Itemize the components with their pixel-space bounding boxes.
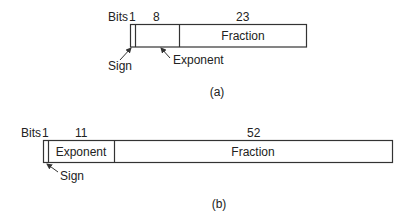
sign-width-b: 1: [42, 126, 49, 140]
sign-label-b: Sign: [60, 169, 84, 183]
fraction-label-a: Fraction: [221, 29, 264, 43]
fraction-width-a: 23: [236, 10, 250, 24]
caption-a: (a): [210, 85, 225, 99]
bits-label-a: Bits: [108, 10, 128, 24]
fraction-width-b: 52: [247, 126, 261, 140]
exponent-width-a: 8: [153, 10, 160, 24]
sign-width-a: 1: [129, 10, 136, 24]
floating-point-format-diagram: Bits 1 8 23 Fraction Sign Exponent (a) B…: [0, 0, 409, 211]
bits-label-b: Bits: [21, 126, 41, 140]
sign-arrow-b: [47, 164, 58, 172]
fraction-label-b: Fraction: [231, 145, 274, 159]
sign-label-a: Sign: [108, 59, 132, 73]
exponent-width-b: 11: [75, 126, 88, 140]
exponent-label-a: Exponent: [173, 53, 224, 67]
exponent-label-b: Exponent: [56, 145, 107, 159]
bitfield-box-a: [131, 25, 307, 48]
caption-b: (b): [212, 197, 227, 211]
format-b-double-precision: Bits 1 11 52 Exponent Fraction Sign (b): [21, 126, 393, 211]
format-a-single-precision: Bits 1 8 23 Fraction Sign Exponent (a): [108, 10, 307, 99]
exponent-arrow-a: [161, 48, 170, 58]
